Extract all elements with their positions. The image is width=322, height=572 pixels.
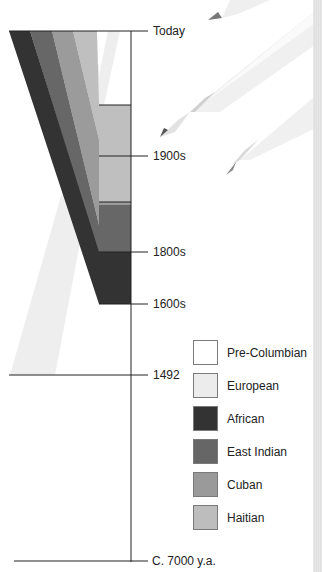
swatch-african bbox=[193, 406, 218, 431]
swatch-cuban bbox=[193, 472, 218, 497]
swatch-pre-columbian bbox=[193, 340, 218, 365]
legend-label: Haitian bbox=[227, 511, 264, 525]
population-bands bbox=[0, 0, 322, 572]
legend-label: Cuban bbox=[227, 478, 262, 492]
legend-label: African bbox=[227, 412, 264, 426]
swatch-east-indian bbox=[193, 439, 218, 464]
pencil-icon bbox=[225, 90, 322, 176]
legend-label: Pre-Columbian bbox=[227, 346, 307, 360]
label-1900s: 1900s bbox=[153, 149, 186, 163]
legend-label: East Indian bbox=[227, 445, 287, 459]
label-today: Today bbox=[153, 24, 185, 38]
legend-label: European bbox=[227, 379, 279, 393]
swatch-european bbox=[193, 373, 218, 398]
swatch-haitian bbox=[193, 505, 218, 530]
label-1600s: 1600s bbox=[153, 297, 186, 311]
label-1800s: 1800s bbox=[153, 245, 186, 259]
page-edge-strip bbox=[313, 0, 322, 572]
label-7000-years-ago: C. 7000 y.a. bbox=[152, 554, 216, 568]
label-1492: 1492 bbox=[153, 368, 180, 382]
population-origins-diagram: Today 1900s 1800s 1600s 1492 C. 7000 y.a… bbox=[0, 0, 322, 572]
